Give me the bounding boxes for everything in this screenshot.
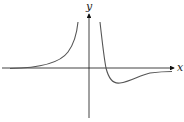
right-branch-curve xyxy=(100,22,172,83)
function-graph: y x xyxy=(0,0,184,122)
y-axis-label: y xyxy=(85,0,93,13)
x-axis-label: x xyxy=(177,61,184,74)
left-branch-curve xyxy=(10,22,78,69)
